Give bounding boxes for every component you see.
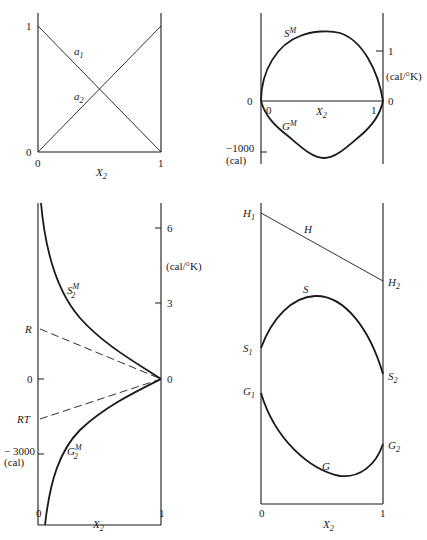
p2-right-1: 1 [388,45,394,57]
a2-label: a2 [74,90,84,105]
p2-xtick-1: 1 [371,104,377,116]
p3-xtick-1: 1 [159,507,165,519]
G2-label: G2 [388,439,400,454]
S2-label: S2 [388,370,398,385]
p1-ytick-1: 1 [26,20,32,32]
s-curve [261,296,383,374]
s2m-curve [41,203,161,379]
a1-label: a1 [74,45,84,60]
H2-label: H2 [387,276,400,291]
h-line [261,213,383,281]
p4-xtick-1: 1 [380,507,386,519]
p2-left-0: 0 [247,95,253,107]
p4-xlabel: X2 [322,518,334,533]
H1-label: H1 [242,207,255,222]
sm-curve [261,31,383,101]
p2-right-unit: (cal/°K) [386,70,422,83]
S-label: S [303,283,309,295]
p1-xtick-0: 0 [35,157,41,169]
s2m-label: SM2 [67,282,81,300]
H-label: H [303,223,313,235]
p2-left-m1000: −1000 [226,142,255,154]
p3-xlabel: X2 [92,518,104,533]
p3-right-6: 6 [167,222,173,234]
p3-right-3: 3 [167,297,173,309]
panel-activities [38,13,161,152]
panel-partial-molar [38,203,161,525]
p2-xtick-0: 0 [266,104,272,116]
p3-left-R: R [24,323,32,335]
p2-right-0: 0 [388,95,394,107]
p2-left-unit: (cal) [226,154,246,167]
p3-left-RT: RT [16,413,31,425]
G-label: G [322,460,330,472]
p3-right-unit: (cal/°K) [166,260,202,273]
p3-left-unit: (cal) [4,456,24,469]
p1-ytick-0: 0 [26,146,32,158]
g2m-curve [45,379,161,525]
G1-label: G1 [243,385,255,400]
p3-right-0: 0 [167,373,173,385]
g2m-label: GM2 [67,443,83,461]
gm-label: GM [282,119,298,132]
p1-xlabel: X2 [95,166,107,181]
p3-left-0: 0 [27,373,33,385]
p1-xtick-1: 1 [158,157,164,169]
p2-xlabel: X2 [315,105,327,120]
S1-label: S1 [243,342,253,357]
panel-molar-properties [261,203,383,504]
figure: 1 0 0 1 a1 a2 X2 SM GM 0 −1000 (cal) 0 1… [0,0,427,540]
panel-mixing [261,13,383,164]
p3-xtick-0: 0 [36,507,42,519]
p4-xtick-0: 0 [259,507,265,519]
